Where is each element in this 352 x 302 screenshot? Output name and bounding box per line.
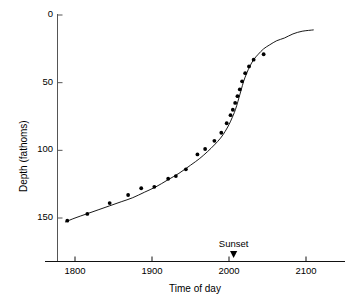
y-tick-label-100: 100 [37,143,53,154]
data-points [65,52,265,222]
data-point [196,152,200,156]
depth-vs-time-chart: 050100150 1800190020002100 Depth (fathom… [0,0,352,302]
data-point [174,174,178,178]
data-point [231,108,235,112]
axes [45,14,345,262]
y-tick-label-150: 150 [37,211,53,222]
data-point [203,147,207,151]
data-point [238,88,242,92]
x-tick-label-2100: 2100 [281,265,331,276]
data-point [126,193,130,197]
x-tick-label-1800: 1800 [50,265,100,276]
data-point [262,52,266,56]
data-point [252,58,256,62]
data-point [233,101,237,105]
data-point [225,121,229,125]
data-point [108,201,112,205]
data-point [139,186,143,190]
y-axis-title: Depth (fathoms) [18,120,29,192]
data-point [166,177,170,181]
data-point [85,212,89,216]
data-point [152,185,156,189]
data-point [212,139,216,143]
data-point [219,131,223,135]
fitted-curve [65,30,314,222]
data-point [236,94,240,98]
sunset-triangle-icon [230,251,237,258]
y-axis-ticks [58,15,63,218]
x-tick-label-2000: 2000 [204,265,254,276]
sunset-annotation-label: Sunset [194,238,274,249]
x-axis-ticks [75,257,306,262]
data-point [240,79,244,83]
data-point [247,65,251,69]
x-axis-title: Time of day [95,283,295,294]
data-point [229,113,233,117]
data-point [65,219,69,223]
x-tick-label-1900: 1900 [127,265,177,276]
data-point [243,71,247,75]
y-tick-label-50: 50 [42,76,53,87]
y-tick-label-0: 0 [48,8,53,19]
data-point [184,167,188,171]
